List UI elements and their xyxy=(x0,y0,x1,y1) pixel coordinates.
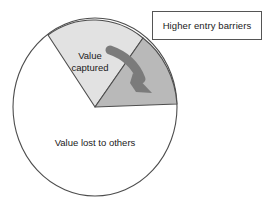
callout-label: Higher entry barriers xyxy=(163,20,252,31)
label-value-captured: Value captured xyxy=(44,50,136,74)
label-value-captured-line1: Value xyxy=(44,50,136,62)
label-value-lost-to-others: Value lost to others xyxy=(20,137,170,149)
label-value-captured-line2: captured xyxy=(44,62,136,74)
callout-higher-entry-barriers[interactable]: Higher entry barriers xyxy=(152,11,262,40)
pie-diagram: Higher entry barriers Value captured Val… xyxy=(0,0,278,200)
